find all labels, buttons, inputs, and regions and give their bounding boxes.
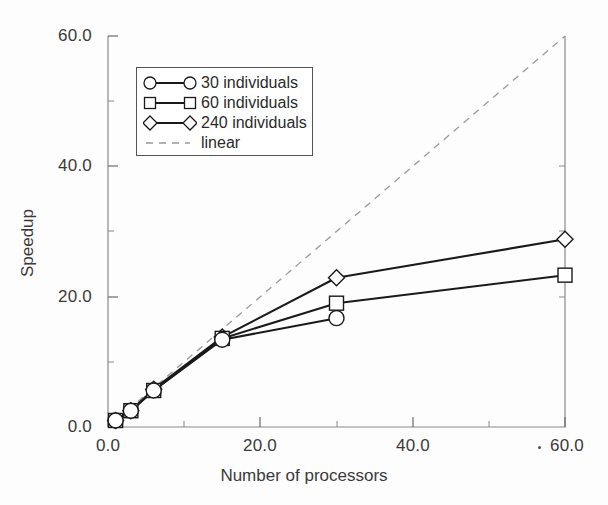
x-axis-title: Number of processors: [0, 466, 608, 486]
x-tick-label-0: 0.0: [73, 436, 143, 456]
y-minor-ticks: [108, 101, 114, 362]
x-tick-label-40: 40.0: [378, 436, 448, 456]
series-markers-60-individuals: [109, 268, 572, 427]
legend-label-240-individuals: 240 individuals: [197, 114, 307, 132]
y-tick-label-60: 60.0: [20, 26, 92, 46]
x-tick-label-20: 20.0: [225, 436, 295, 456]
legend-key-diamond-line: [143, 114, 197, 132]
legend-label-linear: linear: [197, 134, 240, 152]
chart-legend: 30 individuals 60 individuals 240 in: [136, 67, 313, 156]
legend-key-square-line: [143, 94, 197, 112]
legend-entry-linear: linear: [137, 133, 312, 153]
legend-entry-60-individuals: 60 individuals: [137, 93, 312, 113]
legend-entry-30-individuals: 30 individuals: [137, 73, 312, 93]
y-tick-label-40: 40.0: [20, 156, 92, 176]
legend-label-60-individuals: 60 individuals: [197, 94, 298, 112]
legend-key-circle-line: [143, 74, 197, 92]
chart-figure: 60.0 40.0 20.0 0.0 0.0 20.0 40.0 60.0 Nu…: [0, 0, 608, 505]
legend-entry-240-individuals: 240 individuals: [137, 113, 312, 133]
y-tick-label-0: 0.0: [20, 417, 92, 437]
legend-label-30-individuals: 30 individuals: [197, 74, 298, 92]
legend-key-dashed-line: [143, 134, 197, 152]
series-markers-240-individuals: [108, 231, 573, 428]
series-markers-30-individuals: [108, 311, 344, 428]
x-tick-label-60: 60.0: [532, 436, 602, 456]
x-minor-ticks: [184, 421, 489, 427]
y-axis-title: Speedup: [18, 193, 38, 293]
series-line-240-individuals: [116, 239, 565, 420]
